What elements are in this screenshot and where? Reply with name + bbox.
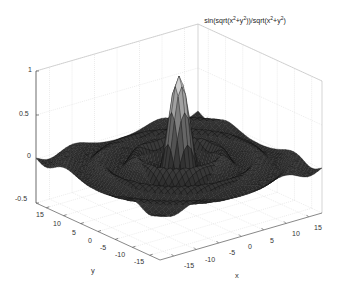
y-tick-neg15: -15 [134, 258, 144, 265]
x-tick-15: 15 [314, 224, 322, 231]
z-tick-0: 0 [27, 152, 31, 159]
x-tick-5: 5 [270, 237, 274, 244]
y-tick-5: 5 [72, 229, 76, 236]
y-tick-neg5: -5 [100, 244, 106, 251]
y-tick-15: 15 [36, 211, 44, 218]
x-tick-0: 0 [248, 243, 252, 250]
surface-mesh [36, 76, 322, 217]
z-tick-neg0.5: -0.5 [15, 195, 27, 202]
x-tick-10: 10 [292, 230, 300, 237]
surface-plot-3d [0, 0, 344, 294]
y-tick-0: 0 [88, 237, 92, 244]
x-tick-neg15: -15 [184, 262, 194, 269]
x-tick-neg5: -5 [229, 249, 235, 256]
chart-title: sin(sqrt(x2+y2))/sqrt(x2+y2) [150, 15, 340, 24]
x-axis-label: x [235, 271, 239, 280]
figure: sin(sqrt(x2+y2))/sqrt(x2+y2) 1 0.5 0 -0.… [0, 0, 344, 294]
y-axis-label: y [91, 266, 95, 275]
z-tick-1: 1 [28, 66, 32, 73]
x-tick-neg10: -10 [205, 256, 215, 263]
y-tick-10: 10 [53, 220, 61, 227]
y-tick-neg10: -10 [115, 251, 125, 258]
z-tick-0.5: 0.5 [19, 110, 29, 117]
